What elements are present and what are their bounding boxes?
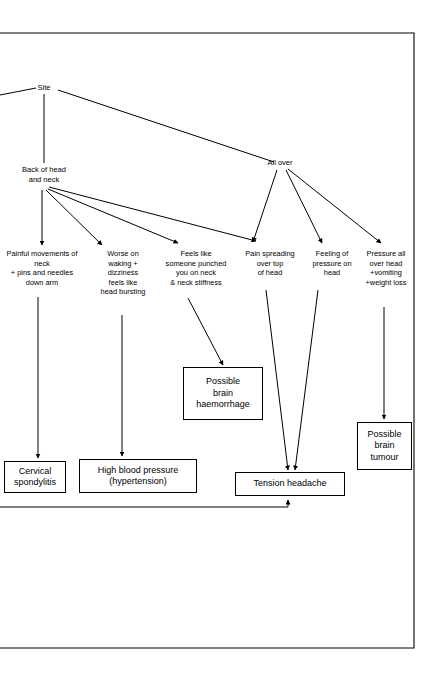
symptom-pain-spreading-over-top-of-head[interactable]: Pain spreading over top of head bbox=[235, 249, 305, 278]
diagnosis-box-possible-brain-haemorrhage[interactable]: Possible brain haemorrhage bbox=[183, 367, 263, 420]
node-site[interactable]: Site bbox=[26, 83, 62, 93]
node-all-over[interactable]: All over bbox=[252, 158, 308, 168]
connector-pain-spreading-to-tension-headache bbox=[266, 290, 288, 470]
diagnosis-box-high-blood-pressure[interactable]: High blood pressure (hypertension) bbox=[79, 459, 197, 493]
flowchart-connectors bbox=[0, 0, 442, 685]
connector-all-over-to-pain-spreading bbox=[253, 170, 277, 242]
symptom-pressure-all-over-head[interactable]: Pressure all over head +vomiting +weight… bbox=[356, 249, 416, 287]
node-back-of-head-and-neck[interactable]: Back of head and neck bbox=[2, 165, 86, 184]
symptom-feeling-of-pressure-on-head[interactable]: Feeling of pressure on head bbox=[303, 249, 361, 278]
symptom-feels-like-someone-punched[interactable]: Feels like someone punched you on neck &… bbox=[155, 249, 237, 287]
diagram-page: Site Back of head and neck All over Pain… bbox=[0, 0, 442, 685]
connector-all-over-to-feeling-of-pressure bbox=[286, 170, 322, 243]
diagnosis-box-tension-headache[interactable]: Tension headache bbox=[235, 472, 345, 496]
page-border-lines bbox=[0, 33, 414, 648]
diagnosis-box-possible-brain-tumour[interactable]: Possible brain tumour bbox=[357, 422, 412, 470]
symptom-worse-on-waking[interactable]: Worse on waking + dizziness feels like h… bbox=[92, 249, 154, 297]
connector-all-over-to-pressure-all-over bbox=[288, 169, 381, 243]
symptom-painful-movements-of-neck[interactable]: Painful movements of neck + pins and nee… bbox=[0, 249, 84, 287]
connector-site-to-all-over bbox=[58, 90, 274, 162]
connector-feeling-of-pressure-to-tension-headache bbox=[295, 290, 318, 470]
connector-bottom-return-to-tension-headache bbox=[0, 500, 288, 507]
diagnosis-box-cervical-spondylitis[interactable]: Cervical spondylitis bbox=[4, 461, 66, 493]
connector-feels-like-punched-to-haemorrhage bbox=[188, 298, 223, 365]
